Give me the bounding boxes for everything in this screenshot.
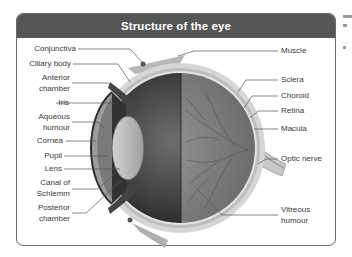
label-lens: Lens [45,163,62,174]
label-conjunctiva: Conjunctiva [34,43,76,54]
label-retina: Retina [281,105,304,116]
label-macula: Macula [281,123,307,134]
label-line: Anterior [39,72,70,83]
label-ciliary-body: Ciliary body [29,58,71,69]
label-line: Vitreous [281,204,310,215]
label-line: chamber [38,213,70,224]
label-line: humour [281,215,310,226]
label-line: Aqueous [38,111,70,122]
cornea-shape [91,92,113,204]
label-cornea: Cornea [37,135,63,146]
label-optic-nerve: Optic nerve [281,153,322,164]
label-line: Canal of [37,177,70,188]
label-posterior-chamber: Posterior chamber [38,202,70,224]
label-aqueous-humour: Aqueous humour [38,111,70,133]
label-muscle: Muscle [281,45,306,56]
lens-shape [112,116,144,180]
label-line: humour [38,122,70,133]
label-choroid: Choroid [281,90,309,101]
label-anterior-chamber: Anterior chamber [39,72,70,94]
label-pupil: Pupil [44,150,62,161]
label-vitreous-humour: Vitreous humour [281,204,310,226]
label-canal-of-schlemm: Canal of Schlemm [37,177,70,199]
label-sclera: Sclera [281,74,304,85]
label-line: chamber [39,83,70,94]
label-line: Schlemm [37,188,70,199]
label-iris: Iris [58,97,69,108]
label-line: Posterior [38,202,70,213]
